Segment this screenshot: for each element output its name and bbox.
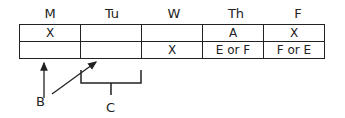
arrow-b-diagonal xyxy=(52,62,96,94)
bracket-c xyxy=(81,70,141,95)
label-c: C xyxy=(106,100,115,115)
annotation-arrows xyxy=(0,0,345,118)
label-b: B xyxy=(36,94,45,109)
